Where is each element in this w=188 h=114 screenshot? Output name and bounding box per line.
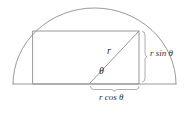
width-label-r-cos-theta: r cos θ	[99, 93, 123, 102]
semicircle-arc	[13, 8, 176, 84]
radius-label: r	[107, 46, 111, 56]
horizontal-brace-rcos	[91, 87, 140, 92]
inscribed-rectangle	[33, 31, 139, 84]
height-label-r-sin-theta: r sin θ	[150, 49, 173, 58]
radius-line	[90, 31, 139, 83]
angle-theta-label: θ	[99, 66, 104, 76]
geometry-figure: r θ r sin θ r cos θ	[0, 0, 188, 114]
vertical-brace-rsin	[143, 32, 148, 83]
